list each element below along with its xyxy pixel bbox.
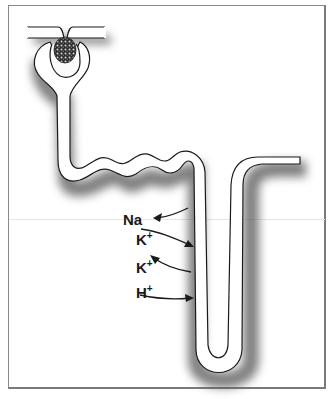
label-na: Na	[123, 211, 142, 227]
glomerulus	[54, 37, 76, 63]
arrowheads	[150, 213, 194, 302]
nephron-diagram	[0, 0, 332, 399]
tubule-outline	[34, 42, 300, 373]
label-h: H+	[136, 284, 153, 300]
label-k-secreted: K+	[136, 231, 153, 247]
label-k-reabsorbed: K+	[136, 259, 153, 275]
